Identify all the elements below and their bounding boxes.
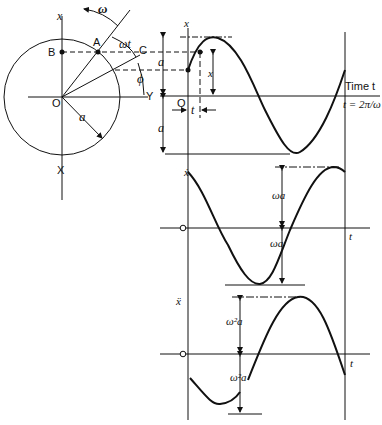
period-label: t = 2π/ω — [343, 99, 381, 110]
label-c: C — [139, 45, 147, 56]
graph1-ylabel: x — [184, 18, 189, 29]
label-x-top: x — [57, 10, 62, 22]
graph2-amp-bottom: ωa — [270, 238, 283, 249]
label-radius: a — [79, 110, 86, 123]
velocity-curve — [188, 167, 345, 284]
shm-diagram: x X Y O A B C ω ωt ϕ a x O a a x t Time … — [0, 0, 382, 425]
label-y: Y — [146, 91, 153, 102]
graph2-ylabel: ẋ — [184, 167, 189, 178]
t-marker: t — [191, 104, 194, 116]
graph3-amp-bottom: ω²a — [230, 372, 247, 383]
label-omega: ω — [98, 2, 107, 15]
graph3-amp-top: ω²a — [226, 316, 243, 327]
label-x-bottom: X — [57, 165, 64, 176]
amp-a-bottom: a — [158, 122, 164, 134]
label-b: B — [48, 47, 55, 58]
x-marker: x — [208, 68, 213, 79]
graph3-tlabel: t — [350, 358, 353, 369]
line-oc — [62, 55, 140, 97]
graph2-amp-top: ωa — [272, 190, 285, 201]
label-phi: ϕ — [137, 72, 144, 85]
diagram-lines — [0, 0, 382, 425]
graph2-tlabel: t — [349, 231, 352, 242]
time-label: Time t — [345, 81, 375, 92]
label-omega-t: ωt — [119, 38, 131, 50]
graph1-origin: O — [177, 98, 186, 109]
accel-curve-b — [248, 297, 345, 380]
displacement-curve — [188, 37, 345, 153]
graph3-ylabel: ẍ — [176, 296, 181, 307]
label-origin: O — [52, 98, 61, 109]
label-a: A — [93, 37, 100, 48]
amp-a-top: a — [158, 56, 164, 68]
